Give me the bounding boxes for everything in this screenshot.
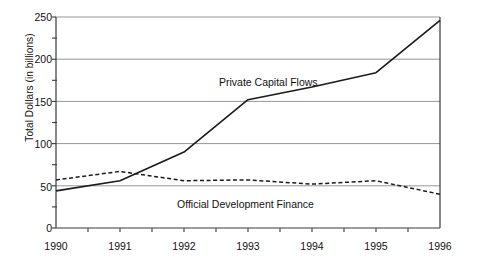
x-tick-label-1990: 1990 [34, 240, 78, 252]
chart-figure: Total Dollars (in billions) 250 200 150 … [0, 0, 492, 266]
x-tick-label-1991: 1991 [98, 240, 142, 252]
y-tick-label-0: 0 [22, 222, 52, 234]
x-tick-label-1993: 1993 [226, 240, 270, 252]
series-line-private-capital-flows [56, 20, 440, 190]
y-tick-label-200: 200 [22, 53, 52, 65]
series-label-official-development-finance: Official Development Finance [177, 198, 314, 210]
gridlines-group [56, 17, 440, 186]
x-tick-label-1992: 1992 [162, 240, 206, 252]
series-label-private-capital-flows: Private Capital Flows [219, 76, 318, 88]
y-tick-label-100: 100 [22, 138, 52, 150]
series-line-official-development-finance [56, 171, 440, 194]
chart-canvas [0, 0, 492, 266]
x-tick-label-1994: 1994 [290, 240, 334, 252]
data-series-group [56, 20, 440, 194]
x-tick-label-1996: 1996 [418, 240, 462, 252]
x-tick-label-1995: 1995 [354, 240, 398, 252]
y-tick-label-150: 150 [22, 96, 52, 108]
y-tick-label-250: 250 [22, 11, 52, 23]
y-tick-label-50: 50 [22, 181, 52, 193]
axis-lines-group [56, 17, 440, 228]
